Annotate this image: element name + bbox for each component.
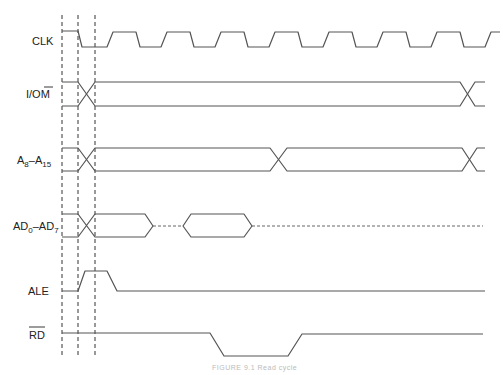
time-markers (62, 15, 95, 356)
figure-caption: FIGURE 9.1 Read cycle (212, 364, 297, 372)
timing-diagram: CLK I/OM A8–A15 AD0–AD7 ALE RD FIGURE 9.… (0, 0, 503, 375)
label-a8-a15: A8–A15 (17, 154, 52, 169)
waveform-clk (62, 31, 500, 47)
waveform-io-m (62, 82, 485, 106)
waveform-ale (62, 271, 485, 291)
waveform-ad0-ad7 (62, 214, 483, 237)
signal-labels: CLK I/OM A8–A15 AD0–AD7 ALE RD (13, 35, 59, 341)
label-ad0-ad7: AD0–AD7 (13, 220, 59, 235)
label-ale: ALE (28, 285, 49, 297)
label-clk: CLK (32, 35, 54, 47)
waveform-rd (62, 333, 483, 356)
label-rd: RD (29, 329, 45, 341)
label-io-m: I/OM (26, 88, 50, 100)
waveform-a8-a15 (62, 148, 485, 171)
